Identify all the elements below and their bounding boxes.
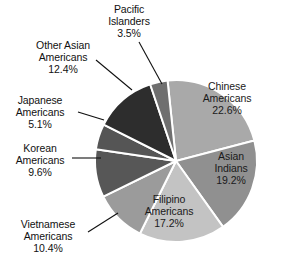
slice-label-korean-americans: Korean Americans 9.6% — [2, 142, 78, 179]
slice-label-asian-indians: Asian Indians 19.2% — [196, 150, 266, 187]
slice-label-chinese-americans: Chinese Americans 22.6% — [186, 80, 268, 117]
slice-label-filipino-americans: Filipino Americans 17.2% — [128, 193, 210, 230]
slice-label-pacific-islanders: Pacific Islanders 3.5% — [92, 3, 166, 40]
leader-line-japanese-americans — [78, 112, 104, 120]
leader-line-pacific-islanders — [139, 42, 162, 84]
slice-label-japanese-americans: Japanese Americans 5.1% — [2, 94, 78, 131]
slice-label-other-asian-americans: Other Asian Americans 12.4% — [20, 39, 106, 76]
pie-chart-figure: Pacific Islanders 3.5% Other Asian Ameri… — [0, 0, 287, 272]
slice-label-vietnamese-americans: Vietnamese Americans 10.4% — [0, 218, 96, 255]
